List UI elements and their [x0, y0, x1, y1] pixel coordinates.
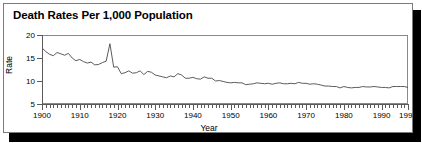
x-tick-1968: [299, 105, 300, 108]
x-tick-label-1900: 1900: [33, 111, 51, 120]
x-tick-1967: [295, 105, 296, 108]
figure-root: Death Rates Per 1,000 Population 5101520…: [0, 0, 422, 143]
x-tick-label-1920: 1920: [109, 111, 127, 120]
x-tick-label-1930: 1930: [146, 111, 164, 120]
y-tick-label-5: 5: [14, 100, 35, 108]
x-tick-1930: [155, 105, 156, 110]
x-tick-1966: [291, 105, 292, 108]
y-axis-line: [42, 35, 43, 105]
x-tick-1991: [385, 105, 386, 108]
x-tick-1934: [170, 105, 171, 108]
data-line-plot: [42, 35, 408, 104]
x-tick-1901: [46, 105, 47, 108]
x-tick-1938: [185, 105, 186, 108]
y-axis-title: Rate: [4, 49, 14, 81]
y-tick-15: [37, 58, 42, 59]
x-tick-1957: [257, 105, 258, 108]
x-tick-1952: [238, 105, 239, 108]
x-tick-1941: [197, 105, 198, 108]
x-tick-1961: [272, 105, 273, 108]
x-tick-1976: [329, 105, 330, 108]
x-tick-1924: [133, 105, 134, 108]
x-tick-1931: [159, 105, 160, 108]
y-tick-label-15: 15: [14, 54, 35, 62]
x-tick-1993: [393, 105, 394, 108]
x-tick-1926: [140, 105, 141, 108]
x-tick-1939: [189, 105, 190, 108]
x-tick-1913: [91, 105, 92, 108]
x-tick-1989: [378, 105, 379, 108]
x-tick-1912: [87, 105, 88, 108]
x-tick-1925: [136, 105, 137, 108]
x-tick-1935: [174, 105, 175, 108]
x-tick-1932: [163, 105, 164, 108]
x-tick-1977: [333, 105, 334, 108]
x-tick-1943: [204, 105, 205, 108]
x-tick-1921: [121, 105, 122, 108]
x-tick-1962: [276, 105, 277, 108]
x-tick-1933: [167, 105, 168, 108]
x-tick-1916: [102, 105, 103, 108]
x-tick-1955: [250, 105, 251, 108]
x-tick-1956: [253, 105, 254, 108]
y-tick-label-10: 10: [14, 77, 35, 85]
chart-card: Death Rates Per 1,000 Population 5101520…: [3, 3, 413, 133]
x-axis-line: [42, 104, 409, 105]
x-tick-label-1910: 1910: [71, 111, 89, 120]
x-tick-label-1940: 1940: [184, 111, 202, 120]
x-tick-1969: [302, 105, 303, 108]
x-tick-1917: [106, 105, 107, 108]
x-tick-1964: [284, 105, 285, 108]
x-tick-1909: [76, 105, 77, 108]
x-tick-label-1950: 1950: [222, 111, 240, 120]
x-tick-1990: [382, 105, 383, 110]
x-tick-1963: [280, 105, 281, 108]
x-tick-1984: [359, 105, 360, 108]
x-tick-1971: [310, 105, 311, 108]
x-tick-1965: [287, 105, 288, 108]
x-tick-1988: [374, 105, 375, 108]
x-tick-1907: [68, 105, 69, 108]
x-tick-label-1970: 1970: [297, 111, 315, 120]
x-tick-1959: [265, 105, 266, 108]
x-tick-1937: [182, 105, 183, 108]
x-tick-1923: [129, 105, 130, 108]
x-tick-1970: [306, 105, 307, 110]
x-tick-1994: [397, 105, 398, 108]
x-tick-1949: [227, 105, 228, 108]
x-tick-1929: [151, 105, 152, 108]
x-tick-1958: [261, 105, 262, 108]
x-tick-1947: [219, 105, 220, 108]
x-tick-1902: [50, 105, 51, 108]
x-tick-1903: [53, 105, 54, 108]
x-tick-1975: [325, 105, 326, 108]
x-tick-1915: [99, 105, 100, 108]
x-tick-1922: [125, 105, 126, 108]
x-tick-1992: [389, 105, 390, 108]
x-tick-1918: [110, 105, 111, 108]
x-tick-1960: [268, 105, 269, 110]
x-tick-1983: [355, 105, 356, 108]
x-tick-1928: [148, 105, 149, 108]
x-tick-1986: [367, 105, 368, 108]
x-axis-title: Year: [4, 123, 414, 133]
x-tick-1951: [234, 105, 235, 108]
x-tick-1908: [72, 105, 73, 108]
x-tick-1900: [42, 105, 43, 110]
x-tick-1995: [401, 105, 402, 108]
x-tick-1927: [144, 105, 145, 108]
x-tick-1936: [178, 105, 179, 108]
x-tick-label-1960: 1960: [259, 111, 277, 120]
x-tick-1944: [208, 105, 209, 108]
x-tick-1911: [84, 105, 85, 108]
x-tick-1996: [404, 105, 405, 108]
x-tick-1942: [201, 105, 202, 108]
x-tick-label-1997: 1997: [399, 111, 417, 120]
x-tick-1920: [118, 105, 119, 110]
x-tick-1919: [114, 105, 115, 108]
y-tick-label-20: 20: [14, 31, 35, 39]
y-tick-20: [37, 35, 42, 36]
x-tick-1978: [336, 105, 337, 108]
x-tick-1950: [231, 105, 232, 110]
x-tick-1981: [348, 105, 349, 108]
